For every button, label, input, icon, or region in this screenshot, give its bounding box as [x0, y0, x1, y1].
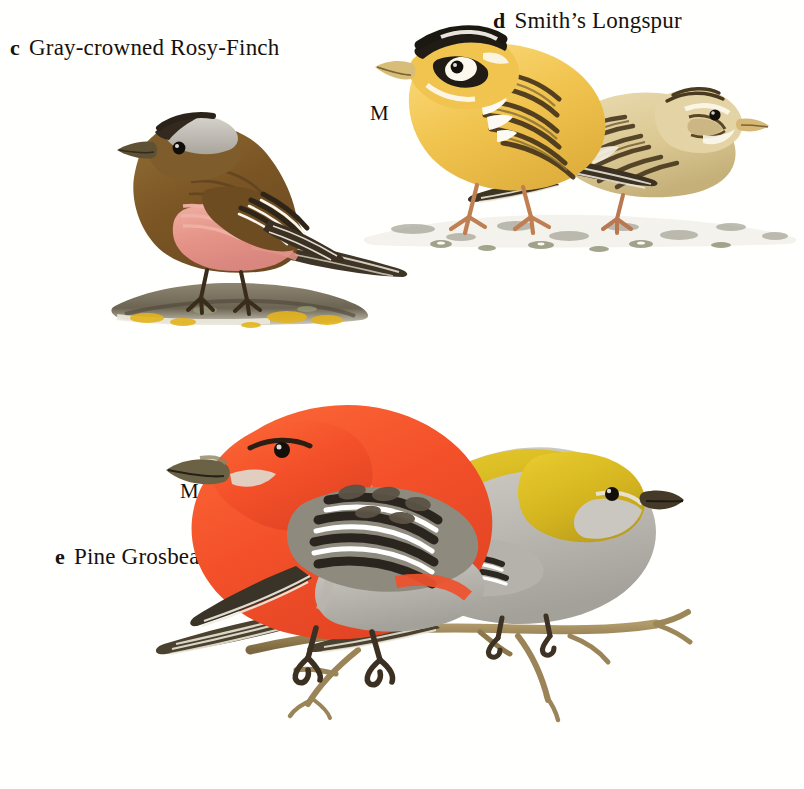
- species-key-c: c: [10, 35, 20, 60]
- illustration-pine-grosbeak: [100, 370, 700, 760]
- species-name-rosy-finch: Gray-crowned Rosy-Finch: [29, 35, 280, 60]
- species-key-e: e: [55, 544, 65, 569]
- longspur-ground-snow: [364, 215, 797, 252]
- illustration-smiths-longspur: [355, 5, 804, 270]
- species-label-rosy-finch: cGray-crowned Rosy-Finch: [10, 35, 279, 61]
- field-guide-plate: cGray-crowned Rosy-Finch: [0, 0, 804, 789]
